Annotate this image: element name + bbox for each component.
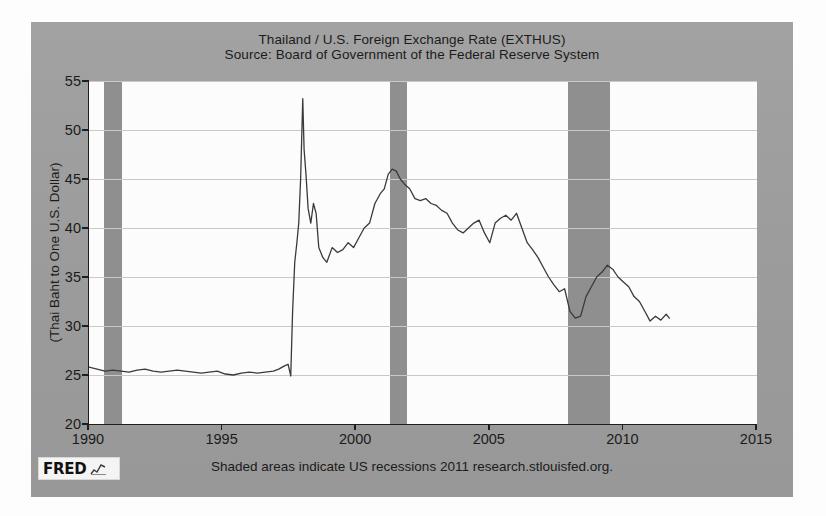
y-tick-label: 25 [51,367,81,383]
chart-title-block: Thailand / U.S. Foreign Exchange Rate (E… [31,32,793,62]
exchange-rate-line [89,81,757,424]
y-tick-label: 50 [51,122,81,138]
y-tick-label: 35 [51,269,81,285]
chart-subtitle: Source: Board of Government of the Feder… [31,47,793,62]
y-tick-label: 30 [51,318,81,334]
x-tick-label: 1990 [72,431,104,447]
x-tick-label: 2015 [740,431,772,447]
x-tick-label: 2000 [339,431,371,447]
plot-area [88,81,757,425]
x-tick-label: 2010 [606,431,638,447]
y-axis-label-text: (Thai Baht to One U.S. Dollar) [47,162,62,342]
x-tick-label: 2005 [473,431,505,447]
y-tick-label: 20 [51,416,81,432]
fred-chart-screenshot: Thailand / U.S. Foreign Exchange Rate (E… [0,0,826,516]
y-tick-label: 55 [51,73,81,89]
footer-note: Shaded areas indicate US recessions 2011… [31,459,793,474]
chart-panel: Thailand / U.S. Foreign Exchange Rate (E… [31,22,793,497]
y-tick-label: 40 [51,220,81,236]
chart-footer: FRED Shaded areas indicate US recessions… [31,454,793,486]
plot-clip [89,81,757,424]
chart-title: Thailand / U.S. Foreign Exchange Rate (E… [31,32,793,47]
x-tick-label: 1995 [205,431,237,447]
y-tick-label: 45 [51,171,81,187]
